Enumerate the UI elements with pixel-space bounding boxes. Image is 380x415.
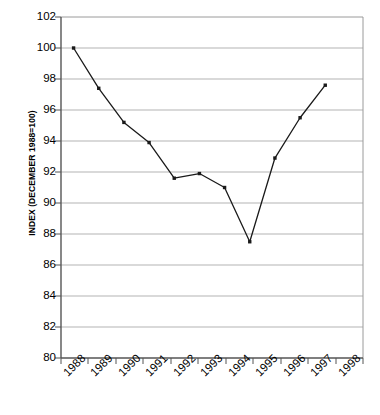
- x-axis-tick-label: 1997: [308, 352, 335, 379]
- x-axis-tick-label: 1988: [61, 352, 88, 379]
- x-axis-tick-label: 1993: [198, 352, 225, 379]
- x-axis-tick-label: 1994: [226, 352, 253, 379]
- line-chart: INDEX (DECEMBER 1988=100) 102 100 98 96 …: [0, 0, 380, 415]
- x-axis-tick-label: 1996: [281, 352, 308, 379]
- x-axis-tick-labels: 1988 1989 1990 1991 1992 1993 1994 1995 …: [0, 0, 380, 415]
- x-axis-tick-label: 1989: [88, 352, 115, 379]
- x-axis-tick-label: 1995: [253, 352, 280, 379]
- x-axis-tick-label: 1998: [336, 352, 363, 379]
- x-axis-tick-label: 1991: [143, 352, 170, 379]
- x-axis-tick-label: 1990: [116, 352, 143, 379]
- x-axis-tick-label: 1992: [171, 352, 198, 379]
